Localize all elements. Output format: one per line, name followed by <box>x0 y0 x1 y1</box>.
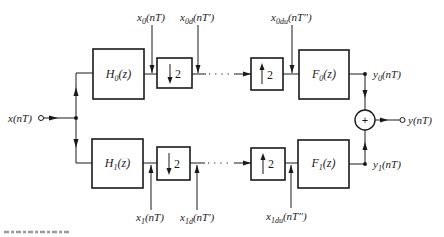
branch-1: H1(z) 2 2 F1(z) y1(nT) x1(nT) x1d(nT′) x… <box>92 130 401 226</box>
interpolator-0-factor: 2 <box>267 68 273 82</box>
upper-split-line <box>76 73 93 118</box>
input-label: x(nT) <box>7 112 32 125</box>
input-arrow-icon <box>49 116 58 121</box>
synthesis-filter-f0-label: F0(z) <box>311 67 336 83</box>
output-label: y(nT) <box>407 114 432 127</box>
arrowhead <box>290 65 295 73</box>
down-arrow-icon <box>363 90 368 98</box>
signal-x0-label: x0(nT) <box>136 11 165 26</box>
branch-0: H0(z) 2 2 F0(z) y0(nT) x0(nT) x0d(nT′) x… <box>93 11 401 110</box>
arrowhead <box>149 165 154 173</box>
up-arrow-icon <box>74 87 79 96</box>
signal-x0du-label: x0du(nT′′) <box>270 11 312 26</box>
decimator-1-factor: 2 <box>174 157 180 171</box>
signal-x1d-label: x1d(nT′) <box>179 211 215 226</box>
filter-bank-diagram: x(nT) H0(z) 2 2 F0(z) y0(nT) <box>0 0 444 237</box>
adder-plus-icon: + <box>362 114 368 126</box>
signal-y1-label: y1(nT) <box>372 158 401 173</box>
analysis-filter-h0-label: H0(z) <box>105 67 131 83</box>
arrow-right-icon <box>243 161 251 166</box>
output-arrow-icon <box>380 118 388 123</box>
decimator-0-factor: 2 <box>175 67 181 81</box>
input-terminal <box>39 116 44 121</box>
signal-y0-label: y0(nT) <box>372 68 401 83</box>
arrow-right-icon <box>243 72 251 77</box>
output-terminal <box>400 118 405 123</box>
interpolator-1-factor: 2 <box>268 157 274 171</box>
arrowhead <box>150 65 155 73</box>
up-arrow-icon <box>363 142 368 150</box>
lower-split-line <box>76 118 92 163</box>
arrowhead <box>195 165 200 173</box>
arrowhead <box>196 65 201 73</box>
down-arrow-icon <box>74 139 79 148</box>
signal-x1-label: x1(nT) <box>135 211 164 226</box>
signal-x1du-label: x1du(nT′′) <box>265 210 307 225</box>
analysis-filter-h1-label: H1(z) <box>104 156 130 172</box>
synthesis-filter-f1-label: F1(z) <box>310 156 335 172</box>
arrowhead <box>289 165 294 173</box>
signal-x0d-label: x0d(nT′) <box>179 11 215 26</box>
